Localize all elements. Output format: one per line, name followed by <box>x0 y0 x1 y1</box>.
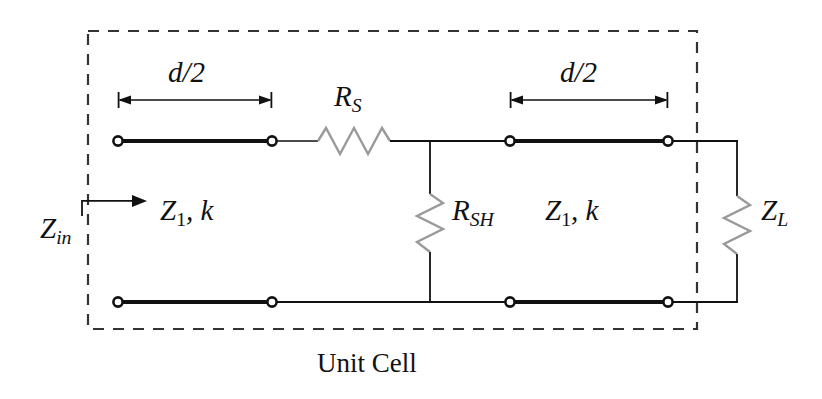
load-impedance-label-base: Z <box>761 194 777 226</box>
series-resistor-label-subscript: S <box>352 94 362 116</box>
dimension-arrow-left <box>118 92 272 108</box>
terminal-node <box>663 297 672 306</box>
shunt-resistor-label-subscript: SH <box>470 208 494 230</box>
terminal-node <box>267 136 276 145</box>
tl-right-label-tail: , k <box>571 194 598 226</box>
input-impedance-label-subscript: in <box>56 226 71 248</box>
circuit-schematic-canvas <box>0 0 822 399</box>
terminal-node <box>663 136 672 145</box>
tl-left-label-tail: , k <box>186 194 213 226</box>
input-impedance-label: Zin <box>40 214 71 247</box>
terminal-node <box>505 297 514 306</box>
load-impedance-symbol <box>724 196 750 254</box>
shunt-resistor-symbol <box>417 194 443 252</box>
tl-left-label-base: Z <box>160 194 176 226</box>
load-impedance-label-subscript: L <box>777 208 788 230</box>
series-resistor-symbol <box>318 128 390 154</box>
input-impedance-label-base: Z <box>40 212 56 244</box>
tl-right-label-subscript: 1 <box>561 208 571 230</box>
series-resistor-label: RS <box>334 82 362 115</box>
shunt-resistor-label: RSH <box>452 196 494 229</box>
tl-right-label-base: Z <box>545 194 561 226</box>
dimension-arrow-right <box>510 92 668 108</box>
input-impedance-arrow <box>82 195 147 216</box>
shunt-resistor-label-base: R <box>452 194 470 226</box>
terminal-node <box>113 136 122 145</box>
unit-cell-caption: Unit Cell <box>317 350 417 377</box>
shunt-resistor-branch <box>417 141 443 302</box>
circuit-diagram-figure: d/2 d/2 RS RSH ZL Zin Z1, k Z1, k Unit C… <box>0 0 822 399</box>
transmission-line-left-label: Z1, k <box>160 196 213 229</box>
series-resistor-label-base: R <box>334 80 352 112</box>
terminal-node <box>505 136 514 145</box>
terminal-node <box>267 297 276 306</box>
terminal-node <box>113 297 122 306</box>
dimension-label-left: d/2 <box>168 58 205 87</box>
load-impedance-label: ZL <box>761 196 788 229</box>
dimension-label-right: d/2 <box>560 58 597 87</box>
transmission-line-right-label: Z1, k <box>545 196 598 229</box>
tl-left-label-subscript: 1 <box>176 208 186 230</box>
load-impedance-branch <box>724 141 750 302</box>
